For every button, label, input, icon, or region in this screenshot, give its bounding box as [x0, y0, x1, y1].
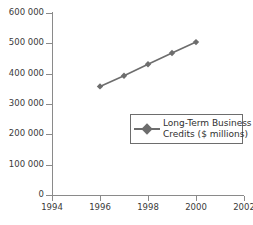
legend-label-line-1: Long-Term Business: [163, 118, 252, 129]
data-point-marker: [169, 50, 175, 56]
series-line-long-term-business-credits: [0, 0, 253, 225]
legend-label: Long-Term Business Credits ($ millions): [163, 118, 252, 140]
data-point-marker: [97, 83, 103, 89]
line-chart: 0100 000200 000300 000400 000500 000600 …: [0, 0, 253, 225]
legend-swatch-marker-icon: [141, 123, 152, 134]
legend: Long-Term Business Credits ($ millions): [130, 114, 243, 144]
legend-label-line-2: Credits ($ millions): [163, 129, 252, 140]
data-point-marker: [121, 73, 127, 79]
data-point-marker: [145, 61, 151, 67]
plot-area: [0, 0, 253, 225]
data-point-marker: [193, 39, 199, 45]
legend-swatch-icon: [134, 122, 160, 136]
